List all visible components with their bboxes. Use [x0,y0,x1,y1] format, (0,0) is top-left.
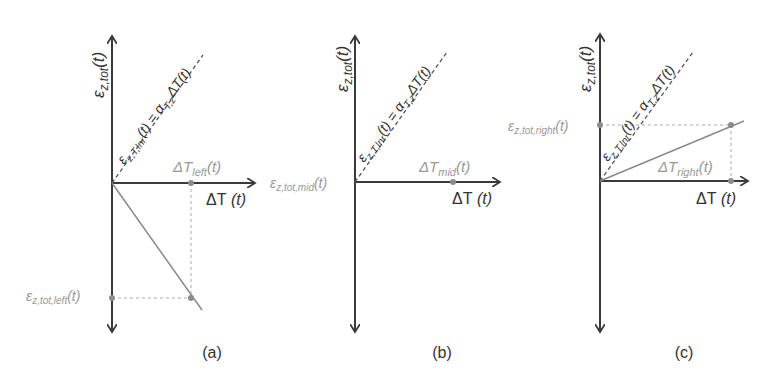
panel-caption: (a) [202,344,222,361]
point-marker [188,295,194,301]
reference-line-label: εz,T,lnr(t) = αT,zΔT(t) [113,65,196,169]
point-x-marker [188,180,194,186]
point-y-label: εz,tot,left(t) [26,288,80,306]
panel-b: εz,tot(t) ΔT (t) εz,T,lnr(t) = αT,zΔT(t)… [270,36,500,361]
reference-line-label: εz,T,lnr(t) = αT,zΔT(t) [353,63,436,167]
point-y-marker [109,295,115,301]
point-x-label: ΔTright(t) [657,158,713,178]
panel-caption: (b) [432,344,452,361]
x-axis-label: ΔT (t) [206,191,246,208]
point-y-label: εz,tot,mid(t) [270,175,327,193]
x-axis-label: ΔT (t) [696,190,736,207]
y-axis-label: εz,tot(t) [89,52,111,98]
y-axis-label: εz,tot(t) [576,46,598,92]
point-y-marker [597,122,603,128]
diagram-canvas: εz,tot(t) ΔT (t) εz,T,lnr(t) = αT,zΔT(t)… [0,0,769,378]
y-axis-label: εz,tot(t) [333,46,355,92]
panel-a: εz,tot(t) ΔT (t) εz,T,lnr(t) = αT,zΔT(t)… [26,36,255,361]
reference-line-label: εz,T,lnr(t) = αT,zΔT(t) [597,62,680,166]
point-x-label: ΔTleft(t) [172,158,221,178]
point-x-marker [728,178,734,184]
point-x-marker [450,179,456,185]
panel-c: εz,tot(t) ΔT (t) εz,T,lnr(t) = αT,zΔT(t)… [508,34,748,361]
response-line [112,183,202,310]
x-axis-label: ΔT (t) [452,190,492,207]
point-y-label: εz,tot,right(t) [508,118,569,136]
panel-caption: (c) [675,344,694,361]
point-marker [728,122,734,128]
point-x-label: ΔTmid(t) [418,158,470,178]
